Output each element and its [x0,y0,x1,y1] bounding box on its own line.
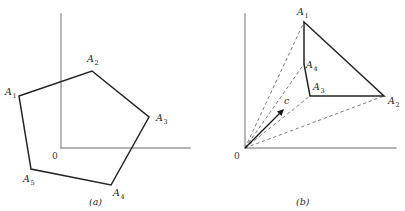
vertex-label-a1-letter: A [4,86,12,97]
dashed-ray-origin-to-a1 [245,22,304,148]
vertex-label-a4-subscript: 4 [121,193,125,201]
vertex-label-a1-subscript: 1 [13,92,17,100]
vertex-label-b-a4: A 4 [305,59,318,73]
vertex-label-b-a1-subscript: 1 [305,12,309,20]
panel-b-caption: (b) [296,196,310,207]
pentagon-shape [19,71,149,185]
vertex-label-b-a2-letter: A [387,95,395,106]
vertex-label-a3-subscript: 3 [164,118,168,126]
vertex-label-a2-subscript: 2 [95,59,99,67]
vertex-label-a2: A 2 [86,53,99,67]
vertex-label-a5: A 5 [22,173,35,187]
vertex-label-b-a3: A 3 [312,81,325,95]
vertex-label-a4-letter: A [112,187,120,198]
vertex-label-b-a1: A 1 [296,6,309,20]
vertex-label-a1: A 1 [4,86,17,100]
vertex-label-a5-subscript: 5 [31,179,35,187]
vertex-label-a4: A 4 [112,187,125,201]
vector-c-shaft [245,113,280,148]
panel-a: 0 A 1 A 2 A 3 A 4 A 5 (a) [4,14,190,207]
vertex-label-b-a2-subscript: 2 [396,101,400,109]
vector-c: c [245,95,290,148]
figure-root: 0 A 1 A 2 A 3 A 4 A 5 (a) [0,0,405,211]
panel-a-caption: (a) [89,196,102,207]
vertex-label-a3-letter: A [155,112,163,123]
vector-c-label: c [284,95,290,106]
vertex-label-b-a2: A 2 [387,95,400,109]
vertex-label-b-a3-subscript: 3 [321,87,325,95]
vertex-label-b-a4-letter: A [305,59,313,70]
vertex-label-b-a4-subscript: 4 [314,65,318,73]
vertex-label-a2-letter: A [86,53,94,64]
dashed-ray-origin-to-a3 [245,96,310,148]
panel-b: c 0 A 1 A 2 A 3 A 4 (b) [234,6,400,207]
dashed-ray-origin-to-a4 [245,64,304,148]
panel-a-origin-label: 0 [52,151,58,161]
vertex-label-a5-letter: A [22,173,30,184]
vertex-label-b-a1-letter: A [296,6,304,17]
vertex-label-a3: A 3 [155,112,168,126]
figure-canvas: 0 A 1 A 2 A 3 A 4 A 5 (a) [0,0,405,211]
panel-b-origin-label: 0 [234,151,240,161]
vertex-label-b-a3-letter: A [312,81,320,92]
